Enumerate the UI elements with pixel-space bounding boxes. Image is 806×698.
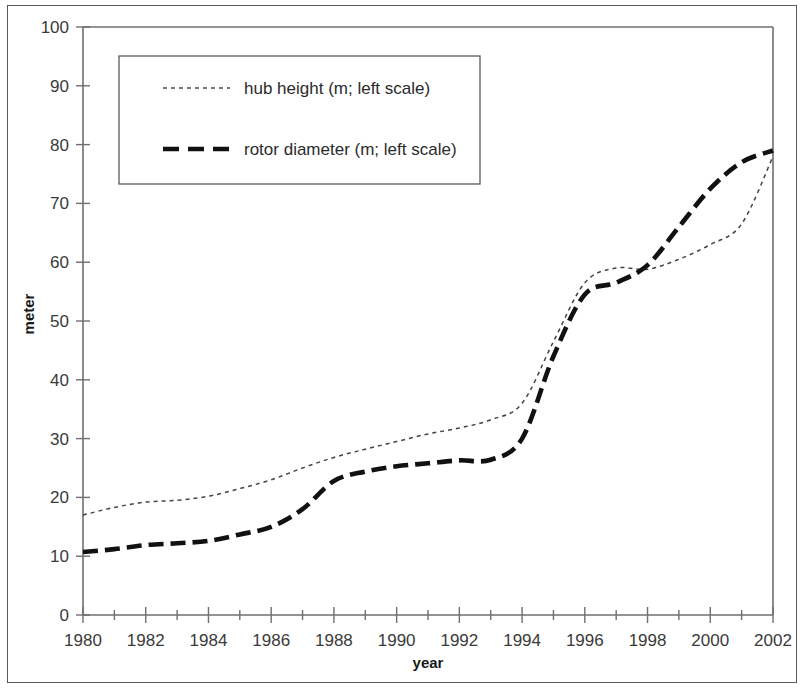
y-tick-label: 60 [50, 253, 69, 272]
series-line-rotor-diameter [83, 150, 773, 552]
x-tick-label: 1990 [378, 631, 416, 650]
x-tick-label: 1986 [252, 631, 290, 650]
legend-label-rotor-diameter: rotor diameter (m; left scale) [244, 140, 457, 159]
x-tick-label: 2002 [754, 631, 792, 650]
legend-label-hub-height: hub height (m; left scale) [244, 79, 430, 98]
x-axis-title: year [413, 654, 444, 671]
y-tick-label: 70 [50, 194, 69, 213]
legend-box [119, 56, 480, 184]
y-tick-label: 80 [50, 136, 69, 155]
x-tick-label: 1984 [190, 631, 228, 650]
x-tick-label: 2000 [691, 631, 729, 650]
y-axis-tick-labels: 0102030405060708090100 [41, 18, 69, 625]
x-tick-label: 1998 [629, 631, 667, 650]
y-tick-label: 10 [50, 547, 69, 566]
x-tick-label: 1980 [64, 631, 102, 650]
figure-frame: 0102030405060708090100 19801982198419861… [7, 5, 797, 683]
y-axis-title: meter [20, 293, 37, 334]
x-tick-label: 1988 [315, 631, 353, 650]
legend: hub height (m; left scale) rotor diamete… [119, 56, 480, 184]
x-axis-tick-labels: 1980198219841986198819901992199419961998… [64, 631, 792, 650]
x-tick-label: 1994 [503, 631, 541, 650]
x-tick-label: 1982 [127, 631, 165, 650]
y-tick-label: 50 [50, 312, 69, 331]
y-tick-label: 100 [41, 18, 69, 37]
y-tick-label: 90 [50, 77, 69, 96]
y-tick-label: 20 [50, 488, 69, 507]
y-tick-label: 30 [50, 430, 69, 449]
x-tick-label: 1992 [440, 631, 478, 650]
wind-turbine-size-chart: 0102030405060708090100 19801982198419861… [8, 6, 796, 682]
y-tick-label: 40 [50, 371, 69, 390]
x-tick-label: 1996 [566, 631, 604, 650]
y-tick-label: 0 [60, 606, 69, 625]
